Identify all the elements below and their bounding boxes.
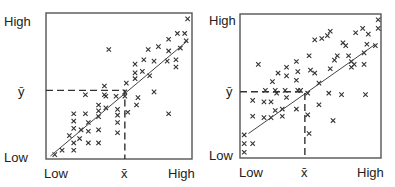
data-point-x-marker <box>362 62 366 66</box>
x-label-high: High <box>357 165 384 180</box>
data-point-x-marker <box>166 112 170 116</box>
data-point-x-marker <box>60 148 64 152</box>
y-label-mean: ȳ <box>226 84 233 99</box>
data-point-x-marker <box>83 93 87 97</box>
data-point-x-marker <box>67 133 71 137</box>
data-point-x-marker <box>339 92 343 96</box>
data-point-x-marker <box>262 100 266 104</box>
data-point-x-marker <box>269 100 273 104</box>
y-label-low: Low <box>4 150 28 165</box>
plot-frame <box>240 14 381 158</box>
data-point-x-marker <box>250 98 254 102</box>
data-point-x-marker <box>250 141 254 145</box>
data-point-x-marker <box>86 129 90 133</box>
data-point-x-marker <box>133 71 137 75</box>
data-point-x-marker <box>133 77 137 81</box>
data-point-x-marker <box>284 65 288 69</box>
data-point-x-marker <box>146 47 150 51</box>
data-point-x-marker <box>335 54 339 58</box>
data-point-x-marker <box>280 114 284 118</box>
data-point-x-marker <box>363 92 367 96</box>
data-point-x-marker <box>133 62 137 66</box>
data-point-x-marker <box>365 42 369 46</box>
data-point-x-marker <box>317 103 321 107</box>
data-point-x-marker <box>352 62 356 66</box>
x-label-low: Low <box>239 165 263 180</box>
data-point-x-marker <box>86 141 90 145</box>
data-point-x-marker <box>331 118 335 122</box>
data-points <box>242 18 380 155</box>
data-point-x-marker <box>183 31 187 35</box>
data-point-x-marker <box>72 126 76 130</box>
data-point-x-marker <box>242 141 246 145</box>
data-point-x-marker <box>115 120 119 124</box>
data-point-x-marker <box>83 112 87 116</box>
data-point-x-marker <box>307 131 311 135</box>
x-label-mean: x̄ <box>301 165 308 180</box>
data-point-x-marker <box>96 141 100 145</box>
data-point-x-marker <box>327 91 331 95</box>
data-point-x-marker <box>353 31 357 35</box>
data-point-x-marker <box>124 81 128 85</box>
scatter-panel-moderate: High ȳ Low Low x̄ High <box>209 13 384 180</box>
data-point-x-marker <box>313 71 317 75</box>
data-point-x-marker <box>308 68 312 72</box>
data-point-x-marker <box>313 38 317 42</box>
mean-guides <box>240 92 305 158</box>
data-point-x-marker <box>270 79 274 83</box>
data-point-x-marker <box>376 18 380 22</box>
data-point-x-marker <box>242 133 246 137</box>
data-point-x-marker <box>262 115 266 119</box>
data-point-x-marker <box>156 44 160 48</box>
data-point-x-marker <box>294 107 298 111</box>
data-point-x-marker <box>102 93 106 97</box>
data-point-x-marker <box>115 107 119 111</box>
y-label-high: High <box>209 13 236 28</box>
y-label-low: Low <box>209 148 233 163</box>
y-label-mean: ȳ <box>18 84 25 99</box>
data-point-x-marker <box>115 113 119 117</box>
data-point-x-marker <box>346 54 350 58</box>
data-point-x-marker <box>276 71 280 75</box>
data-point-x-marker <box>305 113 309 117</box>
data-point-x-marker <box>360 26 364 30</box>
y-label-high: High <box>4 14 31 29</box>
data-point-x-marker <box>72 112 76 116</box>
data-point-x-marker <box>307 54 311 58</box>
data-point-x-marker <box>325 33 329 37</box>
data-point-x-marker <box>107 47 111 51</box>
x-label-mean: x̄ <box>121 166 128 181</box>
data-point-x-marker <box>140 69 144 73</box>
data-point-x-marker <box>328 67 332 71</box>
data-point-x-marker <box>294 59 298 63</box>
data-point-x-marker <box>332 58 336 62</box>
mean-guides <box>46 90 125 159</box>
data-point-x-marker <box>296 69 300 73</box>
data-point-x-marker <box>142 58 146 62</box>
data-point-x-marker <box>72 148 76 152</box>
data-point-x-marker <box>152 90 156 94</box>
data-point-x-marker <box>166 49 170 53</box>
data-point-x-marker <box>320 36 324 40</box>
data-point-x-marker <box>102 84 106 88</box>
data-point-x-marker <box>250 114 254 118</box>
data-point-x-marker <box>273 108 277 112</box>
data-point-x-marker <box>115 131 119 135</box>
data-point-x-marker <box>185 17 189 21</box>
data-point-x-marker <box>294 78 298 82</box>
data-point-x-marker <box>152 59 156 63</box>
regression-line <box>50 41 187 156</box>
x-label-high: High <box>168 166 195 181</box>
data-point-x-marker <box>175 31 179 35</box>
data-point-x-marker <box>114 94 118 98</box>
data-point-x-marker <box>174 65 178 69</box>
data-point-x-marker <box>341 41 345 45</box>
data-point-x-marker <box>284 95 288 99</box>
data-point-x-marker <box>72 119 76 123</box>
data-point-x-marker <box>376 26 380 30</box>
data-point-x-marker <box>328 29 332 33</box>
data-points <box>53 17 190 157</box>
data-point-x-marker <box>256 62 260 66</box>
data-point-x-marker <box>96 103 100 107</box>
data-point-x-marker <box>242 150 246 154</box>
